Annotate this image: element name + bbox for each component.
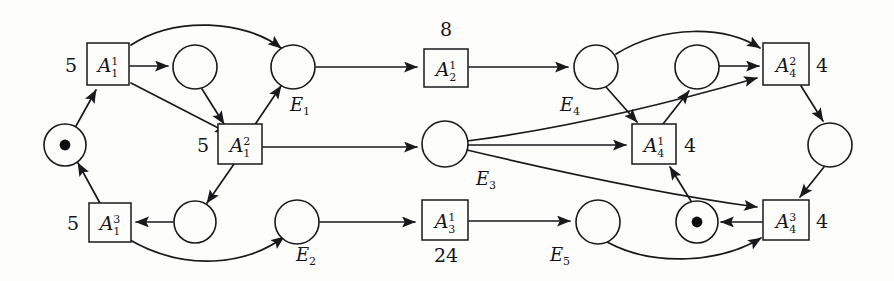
place-lower-1[interactable] bbox=[174, 201, 216, 243]
weight-a13: 5 bbox=[67, 212, 79, 234]
transition-label-a41: A14 bbox=[644, 134, 665, 156]
place-label-e2: E2 bbox=[296, 244, 316, 265]
arc-a41-u2 bbox=[663, 91, 689, 124]
transition-label-a31: A13 bbox=[435, 210, 456, 232]
arc-a13-e2 bbox=[130, 237, 284, 261]
arc-start-a13-to-start bbox=[78, 163, 101, 205]
arc-e5-a43 bbox=[607, 238, 761, 259]
arc-start-a11 bbox=[76, 90, 96, 126]
weight-a43: 4 bbox=[816, 210, 828, 232]
transition-label-a12: A21 bbox=[230, 134, 251, 156]
transition-label-a11: A11 bbox=[98, 54, 119, 76]
arc-u1-a12 bbox=[202, 89, 224, 124]
arc-a12-e1 bbox=[254, 86, 281, 126]
arc-tok2-a41 bbox=[670, 167, 691, 201]
weight-a21: 8 bbox=[440, 18, 452, 40]
place-right[interactable] bbox=[808, 123, 852, 167]
place-label-e5: E5 bbox=[550, 244, 570, 265]
place-label-e3: E3 bbox=[476, 168, 496, 189]
transition-label-a13: A31 bbox=[100, 212, 121, 234]
arc-e4-a41 bbox=[606, 87, 637, 122]
petri-net-canvas bbox=[0, 0, 894, 281]
arc-a12-l1 bbox=[207, 164, 234, 203]
transition-label-a43: A34 bbox=[776, 210, 797, 232]
place-upper-1[interactable] bbox=[173, 45, 217, 89]
place-e5[interactable] bbox=[576, 200, 620, 244]
weight-a11: 5 bbox=[65, 54, 77, 76]
transition-label-a42: A24 bbox=[776, 54, 797, 76]
transition-label-a21: A12 bbox=[436, 58, 457, 80]
place-e4[interactable] bbox=[574, 45, 618, 89]
arc-a11-e1 bbox=[131, 25, 281, 48]
arc-right-a43 bbox=[800, 167, 824, 197]
arc-e3-a43 bbox=[467, 150, 757, 207]
token-start bbox=[60, 140, 71, 151]
weight-a31: 24 bbox=[434, 244, 458, 266]
place-e3[interactable] bbox=[422, 121, 468, 167]
place-e2[interactable] bbox=[275, 200, 319, 244]
place-e1[interactable] bbox=[271, 45, 315, 89]
place-label-e4: E4 bbox=[560, 94, 580, 115]
petri-net-diagram: A11 A21 A31 A12 A13 A14 A24 A34 5 5 5 8 … bbox=[0, 0, 894, 281]
place-label-e1: E1 bbox=[290, 94, 310, 115]
weight-a42: 4 bbox=[816, 54, 828, 76]
weight-a12: 5 bbox=[197, 134, 209, 156]
arc-a42-right bbox=[801, 86, 823, 121]
place-upper-2[interactable] bbox=[675, 45, 719, 89]
arc-e3-a42 bbox=[467, 78, 757, 141]
token-right bbox=[692, 217, 703, 228]
weight-a41: 4 bbox=[684, 134, 696, 156]
